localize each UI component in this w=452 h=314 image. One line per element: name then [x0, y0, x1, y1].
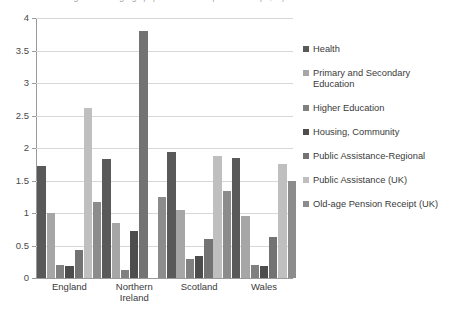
bar [251, 265, 259, 278]
y-tick-mark [32, 213, 36, 214]
legend-swatch-icon [303, 153, 309, 159]
y-tick-label: 3 [24, 78, 29, 88]
y-tick-label: 1 [24, 208, 29, 218]
legend-swatch-icon [303, 105, 309, 111]
y-tick-mark [32, 181, 36, 182]
y-tick-label: 0 [24, 273, 29, 283]
bar [65, 266, 73, 278]
bar [56, 265, 64, 278]
bar [158, 197, 166, 278]
chart-legend: HealthPrimary and Secondary EducationHig… [303, 44, 451, 223]
legend-item-label: Public Assistance-Regional [313, 151, 425, 162]
y-tick-label: 2.5 [16, 111, 29, 121]
bar [139, 31, 147, 278]
bar [288, 181, 296, 278]
legend-item-label: Housing, Community [313, 127, 399, 138]
bar [167, 152, 175, 278]
x-tick-label: England [37, 281, 102, 292]
bar [195, 256, 203, 278]
bar [278, 164, 286, 278]
bar [130, 231, 138, 278]
legend-item[interactable]: Old-age Pension Receipt (UK) [303, 199, 451, 210]
bar [213, 156, 221, 278]
y-tick-mark [32, 246, 36, 247]
bar [241, 216, 249, 278]
gridline [36, 278, 293, 279]
bar [37, 166, 45, 278]
legend-item[interactable]: Higher Education [303, 103, 451, 114]
bar [102, 159, 110, 278]
bar [47, 213, 55, 278]
legend-swatch-icon [303, 70, 309, 76]
legend-swatch-icon [303, 201, 309, 207]
y-tick-label: 4 [24, 13, 29, 23]
bar [121, 270, 129, 278]
y-tick-mark [32, 83, 36, 84]
chart-container: Percentage of working-age population in … [0, 0, 452, 314]
legend-item-label: Health [313, 44, 340, 55]
bar [186, 259, 194, 279]
legend-swatch-icon [303, 177, 309, 183]
legend-item-label: Higher Education [313, 103, 384, 114]
bar [232, 158, 240, 278]
legend-item-label: Old-age Pension Receipt (UK) [313, 199, 438, 210]
y-tick-label: 2 [24, 143, 29, 153]
bar-group: NorthernIreland [102, 18, 167, 278]
bar [269, 237, 277, 278]
chart-title: Percentage of working-age population in … [40, 0, 370, 2]
bar [112, 223, 120, 278]
bar [223, 191, 231, 278]
y-tick-mark [32, 51, 36, 52]
y-tick-label: 3.5 [16, 46, 29, 56]
legend-item-label: Public Assistance (UK) [313, 175, 407, 186]
y-tick-mark [32, 18, 36, 19]
x-tick-label: Scotland [167, 281, 232, 292]
x-tick-label: NorthernIreland [102, 281, 167, 303]
legend-item-label: Primary and Secondary Education [313, 68, 451, 90]
legend-item[interactable]: Public Assistance (UK) [303, 175, 451, 186]
bar [84, 108, 92, 278]
bar [176, 210, 184, 278]
bar [204, 239, 212, 278]
y-tick-label: 1.5 [16, 176, 29, 186]
legend-item[interactable]: Public Assistance-Regional [303, 151, 451, 162]
y-tick-mark [32, 278, 36, 279]
bar-group: Scotland [167, 18, 232, 278]
bar-group: Wales [232, 18, 297, 278]
bar [260, 266, 268, 278]
legend-item[interactable]: Health [303, 44, 451, 55]
y-tick-mark [32, 148, 36, 149]
legend-swatch-icon [303, 129, 309, 135]
legend-swatch-icon [303, 46, 309, 52]
bar [75, 250, 83, 278]
y-tick-label: 0.5 [16, 241, 29, 251]
bar-groups: EnglandNorthernIrelandScotlandWales [37, 18, 293, 278]
legend-item[interactable]: Housing, Community [303, 127, 451, 138]
x-tick-label: Wales [232, 281, 297, 292]
bar [93, 202, 101, 278]
y-tick-mark [32, 116, 36, 117]
plot-area: 00.511.522.533.54 EnglandNorthernIreland… [36, 18, 293, 278]
bar-group: England [37, 18, 102, 278]
legend-item[interactable]: Primary and Secondary Education [303, 68, 451, 90]
